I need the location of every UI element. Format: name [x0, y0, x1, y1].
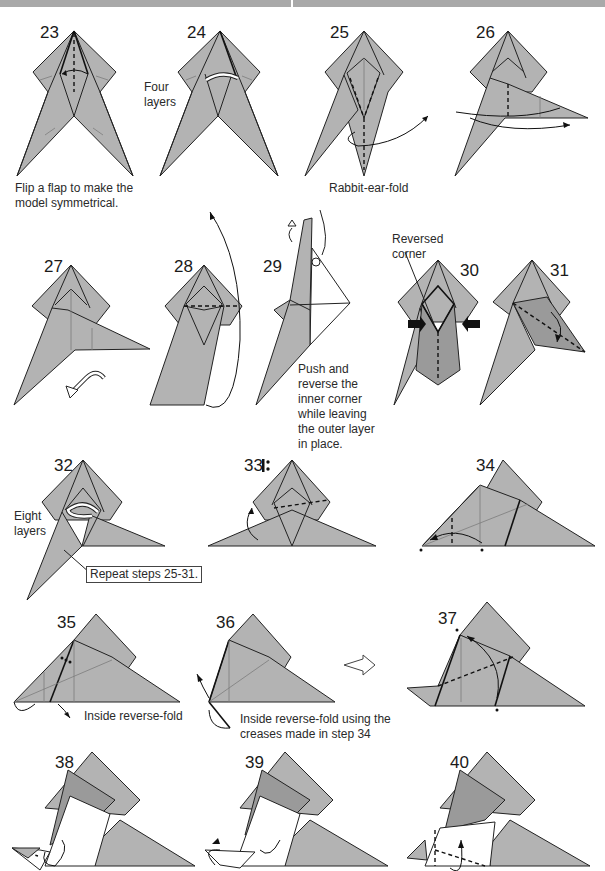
step-33-diagram: [200, 400, 385, 560]
step-24-diagram: [150, 0, 290, 180]
step-40-diagram: [405, 740, 605, 871]
step-29-caption-line-2: reverse the: [298, 377, 375, 392]
header-divider: [291, 0, 293, 7]
step-25-caption: Rabbit-ear-fold: [329, 181, 408, 196]
step-29-caption-line-1: Push and: [298, 362, 375, 377]
step-39-diagram: [200, 740, 400, 871]
step-26-diagram: [450, 0, 605, 180]
step-38-diagram: [0, 740, 200, 871]
step-36-diagram: [195, 580, 345, 730]
step-34-diagram: [410, 400, 605, 560]
step-23-diagram: [0, 0, 140, 180]
step-31-diagram: [475, 200, 605, 415]
step-23-caption-line-1: Flip a flap to make the: [15, 181, 133, 196]
step-35-caption: Inside reverse-fold: [84, 709, 183, 724]
step-35-diagram: [0, 580, 190, 720]
next-view-arrow-icon: [343, 655, 377, 675]
step-25-diagram: [300, 0, 440, 180]
step-37-diagram: [405, 580, 605, 720]
step-28-diagram: [140, 200, 260, 415]
step-36-caption-line-1: Inside reverse-fold using the: [240, 712, 391, 727]
step-36-caption: Inside reverse-fold using the creases ma…: [240, 712, 391, 742]
step-27-diagram: [0, 200, 155, 410]
